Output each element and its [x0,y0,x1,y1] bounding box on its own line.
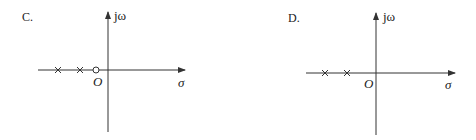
real-axis-label: σ [445,78,451,91]
zero-marker [93,67,99,73]
panel-c-axes [38,12,185,132]
origin-label: O [93,75,102,88]
imag-axis-label: jω [383,10,395,23]
pole-zero-plots [0,0,476,140]
option-label-d: D. [288,12,300,24]
panel-d-axes [306,13,455,135]
imag-axis-text: jω [383,9,395,24]
option-label-c: C. [22,11,33,23]
imag-axis-text: jω [114,8,126,23]
origin-label: O [364,77,373,90]
real-axis-label: σ [178,76,184,89]
imag-axis-label: jω [114,9,126,22]
